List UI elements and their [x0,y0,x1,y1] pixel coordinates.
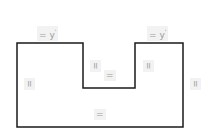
label-top-right-sup: ' [165,28,167,35]
label-notch-left: = [90,60,101,72]
label-top-left: = y' [37,26,58,41]
label-bottom: = [94,109,106,120]
label-top-right-text: = y [149,30,165,40]
label-notch-bottom: = [104,70,116,81]
label-top-left-sup: ' [55,28,57,35]
label-left-side: = [24,78,35,90]
label-notch-right: = [143,60,154,72]
label-top-left-text: = y [39,30,55,40]
label-top-right: = y' [147,26,168,41]
label-right-side: = [190,78,201,90]
